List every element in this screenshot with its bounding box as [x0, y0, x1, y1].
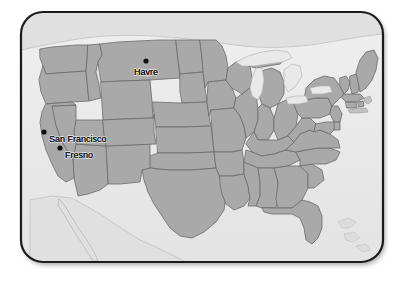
marker-dot-fresno[interactable] — [57, 145, 62, 150]
state-rhode-island — [358, 101, 364, 107]
state-kansas — [156, 126, 214, 153]
marker-dot-havre[interactable] — [143, 58, 148, 63]
map-body: Havre Havre San Francisco San Francisco … — [21, 12, 383, 262]
state-oklahoma — [150, 152, 216, 170]
state-nebraska — [153, 102, 211, 127]
state-south-dakota — [180, 72, 207, 103]
marker-dot-san-francisco[interactable] — [41, 129, 46, 134]
marker-label-havre-fg: Havre — [134, 67, 158, 77]
map-canvas: Havre Havre San Francisco San Francisco … — [0, 0, 407, 286]
state-arkansas — [214, 150, 244, 176]
us-map-figure: Havre Havre San Francisco San Francisco … — [0, 0, 407, 286]
marker-label-san-francisco-fg: San Francisco — [49, 134, 107, 144]
state-delaware — [334, 122, 340, 130]
state-wyoming — [101, 80, 153, 120]
lake-erie — [286, 96, 308, 104]
state-washington — [40, 45, 88, 74]
lake-ontario — [310, 86, 332, 94]
state-connecticut — [346, 102, 357, 108]
state-north-dakota — [176, 40, 203, 74]
marker-label-fresno-fg: Fresno — [65, 150, 93, 160]
